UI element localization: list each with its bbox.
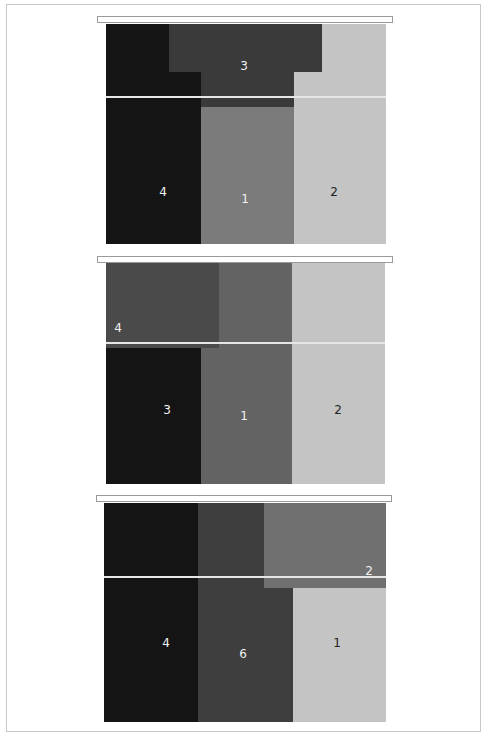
panel-3-top-bar [96, 495, 392, 502]
panel-3-label-6: 6 [239, 648, 247, 660]
panel-2-label-2: 2 [334, 404, 342, 416]
panel-3-block-1 [293, 588, 386, 722]
panel-2-block-4 [106, 263, 219, 348]
panel-1-top-bar [97, 16, 393, 23]
panel-1-label-1: 1 [241, 193, 249, 205]
panel-2-divider-line [106, 342, 385, 344]
panel-3-divider-line [104, 576, 386, 578]
panel-1-divider-line [106, 96, 386, 98]
panel-2-label-4: 4 [114, 322, 122, 334]
panel-2-top-bar [97, 256, 393, 263]
panel-3-label-4: 4 [162, 637, 170, 649]
panel-1-label-2: 2 [330, 186, 338, 198]
panel-3-block-4 [104, 503, 198, 722]
panel-2-block-3 [106, 348, 201, 484]
panel-2-block-2 [292, 263, 385, 484]
panel-3-label-1: 1 [333, 637, 341, 649]
panel-2-label-3: 3 [163, 404, 171, 416]
panel-2-label-1: 1 [240, 410, 248, 422]
panel-1-block-1 [201, 107, 294, 244]
panel-1-block-3-stem [201, 72, 294, 107]
panel-3-label-2: 2 [365, 565, 373, 577]
panel-1-label-4: 4 [159, 186, 167, 198]
panel-1-block-2-upper [322, 24, 386, 72]
panel-1-label-3: 3 [240, 60, 248, 72]
